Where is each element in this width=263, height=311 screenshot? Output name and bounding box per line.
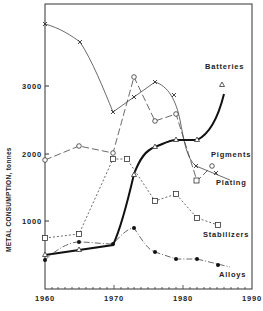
label-plating: Plating xyxy=(216,178,247,187)
label-alloys: Alloys xyxy=(219,270,246,279)
y-tick-3000: 3000 xyxy=(22,82,42,91)
series-plating xyxy=(43,22,230,180)
label-pigments: Pigments xyxy=(211,150,251,159)
y-axis-label: METAL CONSUMPTION, tonnes xyxy=(5,147,13,252)
x-tick-1970: 1970 xyxy=(104,294,124,303)
triangle-markers xyxy=(43,82,225,257)
label-batteries: Batteries xyxy=(205,62,244,71)
chart-canvas: 3000 2000 1000 1960 1970 1980 1990 METAL… xyxy=(0,0,263,311)
x-tick-1990: 1990 xyxy=(242,294,262,303)
x-axis xyxy=(52,285,245,289)
square-markers xyxy=(43,157,221,241)
filled-circle-markers xyxy=(43,226,220,267)
y-tick-2000: 2000 xyxy=(22,150,42,159)
y-tick-1000: 1000 xyxy=(22,217,42,226)
label-stabilizers: Stabilizers xyxy=(203,230,249,239)
series-alloys xyxy=(43,226,230,267)
series-stabilizers xyxy=(43,157,221,241)
x-tick-1980: 1980 xyxy=(173,294,193,303)
series-batteries xyxy=(43,82,225,257)
x-tick-1960: 1960 xyxy=(35,294,55,303)
plot-frame xyxy=(45,4,252,289)
cross-markers xyxy=(43,22,218,175)
y-axis xyxy=(45,86,49,221)
series-pigments xyxy=(43,75,215,183)
